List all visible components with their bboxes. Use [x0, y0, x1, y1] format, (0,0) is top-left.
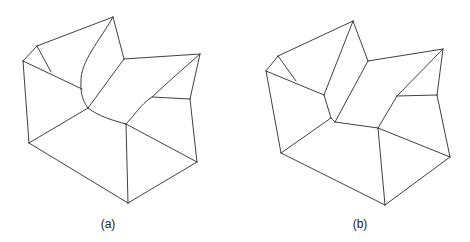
mesh-edge: [335, 122, 378, 128]
mesh-edge: [128, 162, 197, 203]
mesh-edge: [190, 99, 197, 162]
panel-a-mesh: [23, 17, 200, 203]
mesh-curved-edge: [88, 108, 126, 124]
mesh-edge: [124, 54, 200, 59]
mesh-edge: [437, 95, 450, 157]
mesh-edge: [23, 61, 82, 89]
mesh-edge: [281, 118, 331, 153]
mesh-edge: [152, 97, 190, 99]
mesh-edge: [23, 46, 37, 61]
mesh-edge: [29, 108, 88, 143]
diagram-canvas: [0, 0, 470, 242]
mesh-edge: [37, 17, 113, 46]
mesh-edge: [353, 21, 368, 61]
mesh-edge: [37, 46, 51, 72]
mesh-edge: [331, 118, 335, 122]
mesh-edge: [281, 153, 385, 205]
mesh-edge: [378, 128, 450, 157]
mesh-edge: [266, 56, 278, 71]
mesh-curved-edge: [81, 17, 113, 108]
mesh-edge: [397, 49, 443, 96]
panel-b-label: (b): [353, 218, 368, 230]
mesh-edge: [397, 95, 437, 96]
mesh-edge: [113, 17, 124, 59]
mesh-edge: [437, 49, 443, 95]
panel-a-label: (a): [101, 218, 116, 230]
mesh-edge: [126, 124, 197, 162]
mesh-edge: [385, 157, 450, 205]
mesh-edge: [190, 54, 200, 99]
mesh-edge: [368, 49, 443, 61]
mesh-edge: [266, 71, 324, 95]
mesh-edge: [126, 124, 128, 203]
mesh-curved-edge: [126, 54, 200, 124]
mesh-edge: [378, 128, 385, 205]
mesh-edge: [88, 59, 124, 108]
mesh-edge: [335, 61, 368, 122]
mesh-edge: [266, 71, 281, 153]
mesh-edge: [378, 96, 397, 128]
mesh-edge: [23, 61, 29, 143]
panel-b-mesh: [266, 21, 450, 205]
mesh-edge: [324, 95, 331, 118]
mesh-edge: [29, 143, 128, 203]
